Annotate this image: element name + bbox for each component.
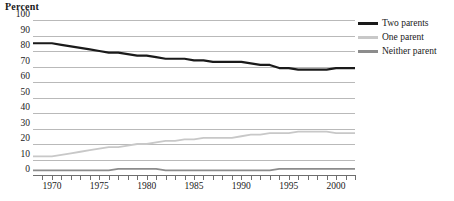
x-tick-1973	[80, 175, 81, 180]
x-tick-1974	[90, 175, 91, 180]
x-tick-1984	[185, 175, 186, 180]
x-tick-1991	[251, 175, 252, 180]
legend-label: One parent	[382, 32, 424, 43]
x-tick-1983	[175, 175, 176, 180]
x-tick-1982	[166, 175, 167, 180]
x-tick-1992	[260, 175, 261, 180]
x-tick-1981	[156, 175, 157, 180]
legend-label: Neither parent	[382, 46, 437, 57]
legend-item-neither-parent[interactable]: Neither parent	[358, 46, 452, 57]
y-tick-label-0: 0	[3, 165, 30, 175]
x-tick-1988	[222, 175, 223, 180]
x-tick-label-1980: 1980	[137, 181, 156, 192]
y-tick-label-20: 20	[3, 134, 30, 144]
x-tick-label-1975: 1975	[90, 181, 109, 192]
x-tick-label-1970: 1970	[42, 181, 61, 192]
x-tick-label-1990: 1990	[232, 181, 251, 192]
x-tick-1986	[203, 175, 204, 180]
series-line-two-parents	[33, 43, 355, 69]
x-tick-label-1985: 1985	[185, 181, 204, 192]
y-tick-label-90: 90	[3, 26, 30, 36]
legend-swatch-icon	[358, 50, 378, 53]
y-tick-label-40: 40	[3, 103, 30, 113]
series-line-one-parent	[33, 132, 355, 157]
x-axis-tick-labels: 1970197519801985199019952000	[0, 181, 454, 195]
y-tick-label-50: 50	[3, 88, 30, 98]
x-tick-1978	[128, 175, 129, 180]
x-tick-1971	[61, 175, 62, 180]
y-tick-label-80: 80	[3, 41, 30, 51]
chart-figure: Percent 1009080706050403020100 197019751…	[0, 0, 454, 201]
x-tick-1987	[213, 175, 214, 180]
x-tick-2002	[355, 175, 356, 180]
x-tick-1976	[109, 175, 110, 180]
y-tick-label-100: 100	[3, 10, 30, 20]
legend-label: Two parents	[382, 18, 429, 29]
series-line-neither-parent	[33, 169, 355, 171]
x-tick-1975	[99, 175, 100, 180]
x-tick-1998	[317, 175, 318, 180]
chart-legend: Two parentsOne parentNeither parent	[358, 18, 452, 60]
x-tick-1977	[118, 175, 119, 180]
x-tick-2001	[346, 175, 347, 180]
x-tick-1993	[270, 175, 271, 180]
y-tick-label-60: 60	[3, 72, 30, 82]
y-tick-label-10: 10	[3, 150, 30, 160]
x-tick-1997	[308, 175, 309, 180]
x-tick-1994	[279, 175, 280, 180]
x-tick-1970	[52, 175, 53, 180]
x-tick-1989	[232, 175, 233, 180]
x-tick-label-2000: 2000	[327, 181, 346, 192]
x-tick-label-1995: 1995	[279, 181, 298, 192]
x-tick-1999	[327, 175, 328, 180]
legend-item-two-parents[interactable]: Two parents	[358, 18, 452, 29]
legend-item-one-parent[interactable]: One parent	[358, 32, 452, 43]
x-tick-1969	[42, 175, 43, 180]
y-tick-label-70: 70	[3, 57, 30, 67]
x-tick-1996	[298, 175, 299, 180]
x-tick-2000	[336, 175, 337, 180]
legend-swatch-icon	[358, 22, 378, 25]
y-tick-label-30: 30	[3, 119, 30, 129]
x-tick-1979	[137, 175, 138, 180]
x-tick-1990	[241, 175, 242, 180]
series-lines	[33, 20, 355, 175]
legend-swatch-icon	[358, 36, 378, 39]
x-tick-1995	[289, 175, 290, 180]
x-tick-1985	[194, 175, 195, 180]
plot-area	[33, 20, 355, 175]
x-tick-1972	[71, 175, 72, 180]
x-tick-1980	[147, 175, 148, 180]
